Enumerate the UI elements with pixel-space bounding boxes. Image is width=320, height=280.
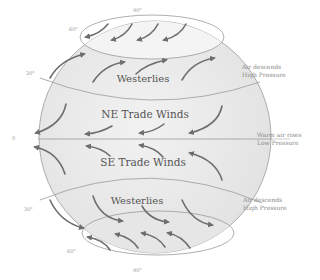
band-label-se-trade: SE Trade Winds	[100, 156, 186, 168]
band-label-ne-trade: NE Trade Winds	[101, 108, 189, 120]
side-label-north-30-line1: Air descends	[241, 63, 281, 70]
lat-label-30s: 30°	[24, 206, 33, 212]
band-label-westerlies-north: Westerlies	[117, 73, 170, 84]
lat-label-90n: 90°	[133, 7, 142, 13]
band-label-westerlies-south: Westerlies	[111, 195, 164, 206]
lat-label-90s: 90°	[133, 267, 142, 273]
lat-label-60n: 60°	[69, 26, 78, 32]
lat-label-60s: 60°	[67, 248, 76, 254]
side-label-south-30-line1: Air descends	[242, 196, 282, 203]
wind-belts-diagram: Westerlies NE Trade Winds SE Trade Winds…	[0, 0, 320, 280]
lat-label-equator: 0	[12, 135, 15, 141]
side-label-equator-line2: Low Pressure	[257, 139, 299, 146]
side-label-north-30-line2: High Pressure	[242, 71, 286, 79]
side-label-south-30-line2: High Pressure	[243, 204, 287, 212]
side-label-equator-line1: Warm air rises	[257, 131, 301, 138]
lat-label-30n: 30°	[26, 70, 35, 76]
